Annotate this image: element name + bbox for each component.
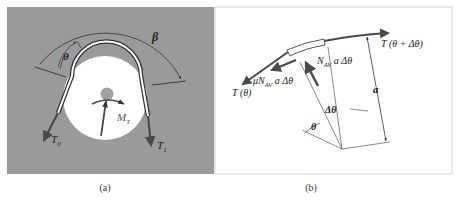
belt-friction-figure: β θ MT T0 T1 (a) (0, 0, 457, 205)
delta-theta-label: Δθ (324, 104, 337, 115)
caption-a: (a) (99, 182, 110, 194)
theta-label-b: θ (311, 121, 317, 132)
tension-right-label: T (θ + Δθ) (381, 38, 423, 50)
beta-label: β (151, 30, 159, 44)
pulley-hub (101, 88, 114, 101)
caption-b: (b) (305, 182, 317, 194)
radius-label: a (373, 83, 379, 95)
friction-label: μNAV a Δθ (252, 75, 293, 88)
panel-b: T (θ) T (θ + Δθ) μNAV a Δθ NAV a Δθ a Δθ… (215, 7, 452, 174)
svg-text:NAV a Δθ: NAV a Δθ (316, 55, 352, 68)
theta-label-a: θ (63, 50, 69, 62)
normal-label: NAV a Δθ (316, 55, 352, 68)
tension-left-label: T (θ) (232, 87, 252, 99)
panel-a: β θ MT T0 T1 (7, 7, 214, 174)
svg-text:μNAV a Δθ: μNAV a Δθ (252, 75, 293, 88)
